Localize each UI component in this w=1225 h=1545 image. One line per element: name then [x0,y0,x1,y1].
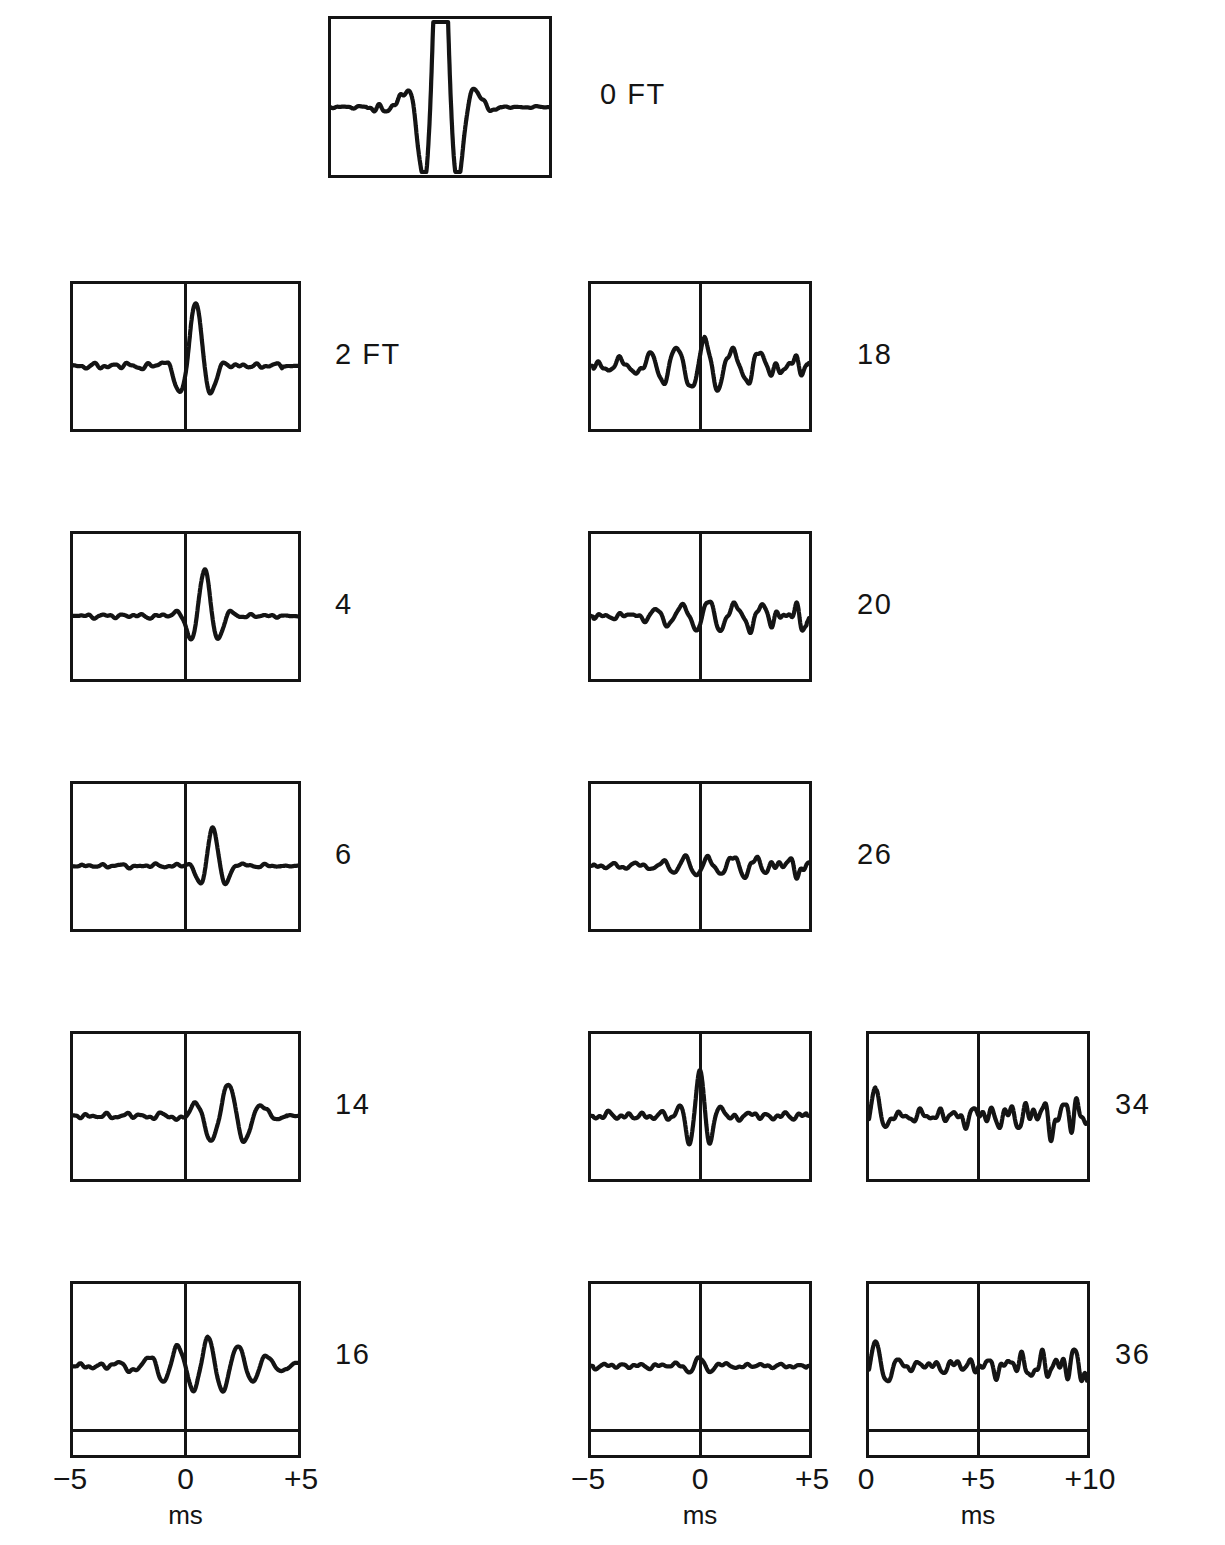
axis-tick-label: −5 [548,1462,628,1496]
waveform-panel-2-ft [70,281,301,432]
axis-unit-label: ms [866,1500,1090,1531]
axis-tick-label: 0 [660,1462,740,1496]
waveform-figure: 0 FT2 FT4614161820263436−50+5ms−50+5ms0+… [0,0,1225,1545]
waveform-trace-svg [591,1034,809,1179]
waveform-trace-svg [73,284,298,429]
axis-midpoint-tick [977,1432,980,1458]
axis-midpoint-tick [184,1432,187,1458]
waveform-trace-svg [73,784,298,929]
waveform-trace-svg [73,1034,298,1179]
waveform-trace-svg [331,19,549,175]
waveform-trace-svg [73,1284,298,1429]
distance-label: 16 [335,1338,370,1371]
waveform-trace [869,1341,1087,1381]
waveform-panel-18 [588,281,812,432]
waveform-trace [73,1337,298,1392]
waveform-trace [331,22,549,172]
distance-label: 2 FT [335,338,401,371]
distance-label: 20 [857,588,892,621]
distance-label: 34 [1115,1088,1150,1121]
waveform-trace [591,855,809,878]
waveform-panel-0-ft [328,16,552,178]
distance-label: 26 [857,838,892,871]
waveform-trace [73,569,298,639]
waveform-panel-34 [866,1031,1090,1182]
axis-tick-labels: −50+5 [30,1462,341,1496]
waveform-trace [591,337,809,391]
waveform-trace-svg [591,1284,809,1429]
waveform-trace [591,602,809,633]
waveform-trace-svg [591,534,809,679]
waveform-trace [869,1087,1087,1141]
axis-unit-label: ms [70,1500,301,1531]
axis-tick-label: +10 [1050,1462,1130,1496]
waveform-panel-pMid4 [588,1031,812,1182]
axis-tick-labels: 0+5+10 [826,1462,1130,1496]
axis-tick-label: 0 [146,1462,226,1496]
waveform-panel-36 [866,1281,1090,1432]
waveform-panel-4 [70,531,301,682]
axis-tick-label: −5 [30,1462,110,1496]
axis-unit-label: ms [588,1500,812,1531]
distance-label: 6 [335,838,353,871]
waveform-panel-26 [588,781,812,932]
waveform-trace-svg [869,1284,1087,1429]
axis-tick-label: 0 [826,1462,906,1496]
waveform-trace [73,303,298,393]
waveform-trace-svg [869,1034,1087,1179]
distance-label: 4 [335,588,353,621]
distance-label: 18 [857,338,892,371]
waveform-trace-svg [591,784,809,929]
waveform-panel-16 [70,1281,301,1432]
waveform-panel-pMid5 [588,1281,812,1432]
waveform-trace-svg [73,534,298,679]
distance-label: 36 [1115,1338,1150,1371]
waveform-panel-6 [70,781,301,932]
waveform-trace-svg [591,284,809,429]
waveform-trace [591,1357,809,1372]
axis-tick-labels: −50+5 [548,1462,852,1496]
waveform-trace [591,1070,809,1144]
axis-midpoint-tick [699,1432,702,1458]
distance-label: 0 FT [600,78,666,111]
waveform-trace [73,827,298,884]
distance-label: 14 [335,1088,370,1121]
axis-tick-label: +5 [261,1462,341,1496]
waveform-panel-14 [70,1031,301,1182]
waveform-trace [73,1085,298,1142]
axis-tick-label: +5 [938,1462,1018,1496]
waveform-panel-20 [588,531,812,682]
